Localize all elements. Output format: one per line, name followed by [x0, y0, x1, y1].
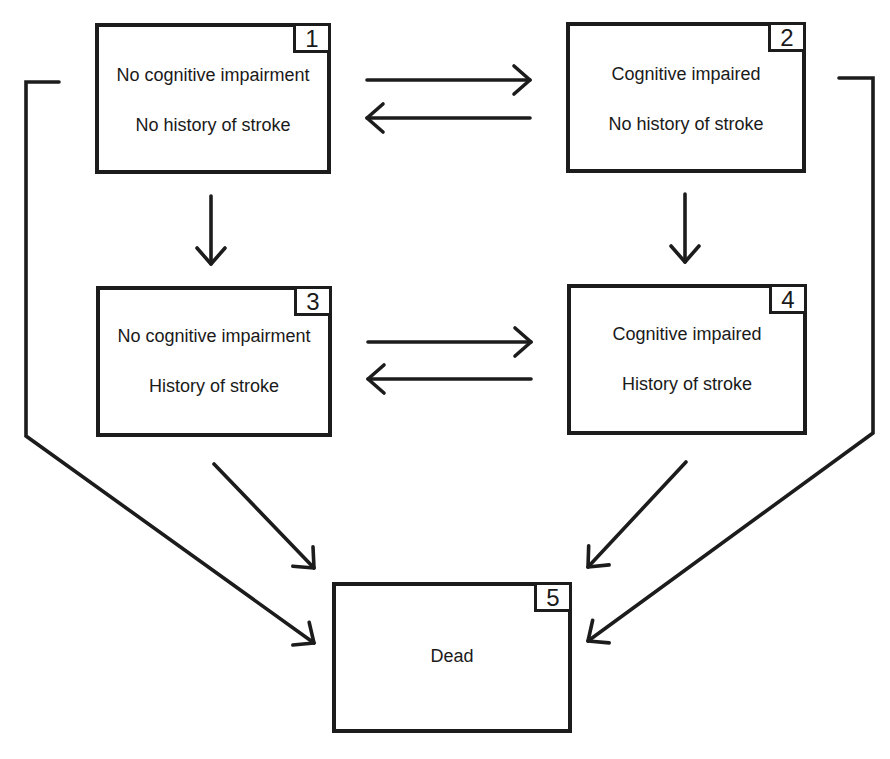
- state-number-3: 3: [294, 286, 332, 316]
- state-box-1: 1 No cognitive impairment No history of …: [95, 23, 331, 174]
- state-number-4: 4: [769, 284, 807, 314]
- state-number-2: 2: [768, 22, 806, 52]
- state-3-line2: History of stroke: [100, 376, 328, 397]
- state-box-4: 4 Cognitive impaired History of stroke: [567, 284, 807, 435]
- state-1-line2: No history of stroke: [99, 115, 327, 136]
- state-box-3: 3 No cognitive impairment History of str…: [96, 286, 332, 437]
- state-box-5: 5 Dead: [332, 582, 572, 733]
- arrow-3-to-5: [214, 464, 314, 568]
- state-2-line2: No history of stroke: [570, 114, 802, 135]
- state-box-2: 2 Cognitive impaired No history of strok…: [566, 22, 806, 173]
- state-2-line1: Cognitive impaired: [570, 64, 802, 85]
- arrow-4-to-5: [588, 462, 686, 567]
- state-5-label: Dead: [336, 646, 568, 667]
- state-number-5: 5: [534, 582, 572, 612]
- state-number-1: 1: [293, 23, 331, 53]
- state-3-line1: No cognitive impairment: [100, 326, 328, 347]
- state-4-line1: Cognitive impaired: [571, 324, 803, 345]
- state-1-line1: No cognitive impairment: [99, 65, 327, 86]
- state-4-line2: History of stroke: [571, 374, 803, 395]
